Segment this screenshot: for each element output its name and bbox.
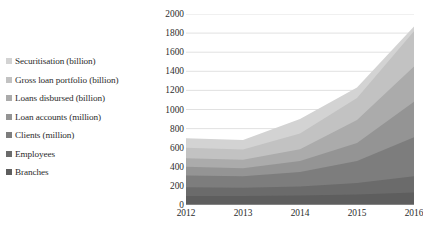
y-axis-tick-label: 1200 bbox=[165, 85, 184, 95]
legend-item-gross-loan-portfolio[interactable]: Gross loan portfolio (billion) bbox=[6, 71, 156, 90]
y-axis-tick-label: 800 bbox=[170, 124, 184, 134]
legend-item-label: Branches bbox=[15, 167, 48, 177]
legend-item-label: Employees bbox=[15, 149, 55, 159]
legend-swatch-icon bbox=[6, 95, 12, 101]
chart-legend: Securitisation (billion) Gross loan port… bbox=[6, 52, 156, 182]
x-axis-tick-label: 2012 bbox=[177, 208, 196, 218]
area-chart-svg bbox=[186, 14, 414, 205]
y-axis-tick-label: 400 bbox=[170, 162, 184, 172]
x-axis-tick-label: 2016 bbox=[405, 208, 423, 218]
legend-item-branches[interactable]: Branches bbox=[6, 163, 156, 182]
legend-swatch-icon bbox=[6, 132, 12, 138]
y-axis-tick-label: 1600 bbox=[165, 47, 184, 57]
legend-item-label: Loan accounts (million) bbox=[15, 112, 101, 122]
legend-item-label: Gross loan portfolio (billion) bbox=[15, 75, 118, 85]
legend-item-clients[interactable]: Clients (million) bbox=[6, 126, 156, 145]
legend-swatch-icon bbox=[6, 114, 12, 120]
legend-swatch-icon bbox=[6, 77, 12, 83]
legend-item-label: Loans disbursed (billion) bbox=[15, 93, 105, 103]
y-axis-tick-label: 1800 bbox=[165, 28, 184, 38]
legend-swatch-icon bbox=[6, 58, 12, 64]
legend-item-employees[interactable]: Employees bbox=[6, 145, 156, 164]
x-axis-tick-label: 2015 bbox=[348, 208, 367, 218]
y-axis-tick-label: 200 bbox=[170, 181, 184, 191]
legend-swatch-icon bbox=[6, 169, 12, 175]
y-axis-tick-labels: 0200400600800100012001400160018002000 bbox=[150, 14, 184, 205]
y-axis-tick-label: 1000 bbox=[165, 105, 184, 115]
cropped-chart-title: ... bbox=[158, 0, 182, 4]
legend-item-label: Securitisation (billion) bbox=[15, 56, 96, 66]
plot-area bbox=[186, 14, 414, 205]
stacked-area-series bbox=[186, 26, 414, 205]
y-axis-tick-label: 600 bbox=[170, 143, 184, 153]
x-axis-tick-labels: 20122013201420152016 bbox=[186, 208, 414, 226]
legend-item-securitisation[interactable]: Securitisation (billion) bbox=[6, 52, 156, 71]
legend-item-loan-accounts[interactable]: Loan accounts (million) bbox=[6, 108, 156, 127]
legend-item-label: Clients (million) bbox=[15, 130, 74, 140]
y-axis-tick-label: 1400 bbox=[165, 66, 184, 76]
x-axis-tick-label: 2013 bbox=[234, 208, 253, 218]
legend-item-loans-disbursed[interactable]: Loans disbursed (billion) bbox=[6, 89, 156, 108]
x-axis-tick-label: 2014 bbox=[291, 208, 310, 218]
y-axis-tick-label: 2000 bbox=[165, 9, 184, 19]
legend-swatch-icon bbox=[6, 151, 12, 157]
